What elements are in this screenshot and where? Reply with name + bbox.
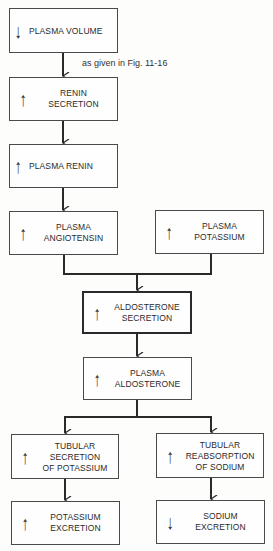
up-arrow-icon: ↑: [94, 367, 101, 390]
node-label: RENIN SECRETION: [34, 88, 113, 110]
down-arrow-icon: ↓: [167, 511, 174, 534]
up-arrow-icon: ↑: [167, 444, 174, 467]
node-label: ALDOSTERONE SECRETION: [108, 302, 186, 324]
node-label: POTASSIUM EXCRETION: [36, 512, 115, 534]
up-arrow-icon: ↑: [22, 512, 29, 535]
node-tubular-reabsorption-sodium: ↑TUBULAR REABSORPTION OF SODIUM: [156, 433, 264, 478]
up-arrow-icon: ↑: [20, 222, 27, 245]
node-label: TUBULAR REABSORPTION OF SODIUM: [181, 439, 259, 472]
up-arrow-icon: ↑: [94, 301, 101, 324]
node-label: SODIUM EXCRETION: [181, 511, 260, 533]
node-plasma-angiotensin: ↑PLASMA ANGIOTENSIN: [9, 211, 118, 255]
node-renin-secretion: ↑RENIN SECRETION: [9, 77, 118, 121]
up-arrow-icon: ↑: [15, 155, 22, 178]
up-arrow-icon: ↑: [166, 221, 173, 244]
node-tubular-secretion-potassium: ↑TUBULAR SECRETION OF POTASSIUM: [11, 434, 119, 479]
node-label: PLASMA ANGIOTENSIN: [34, 222, 113, 244]
node-plasma-aldosterone: ↑PLASMA ALDOSTERONE: [83, 357, 192, 400]
up-arrow-icon: ↑: [22, 445, 29, 468]
node-plasma-volume: ↓PLASMA VOLUME: [9, 8, 118, 53]
flowchart-canvas: as given in Fig. 11-16 ↓PLASMA VOLUME↑RE…: [0, 0, 273, 551]
node-aldosterone-secretion: ↑ALDOSTERONE SECRETION: [82, 291, 192, 334]
node-label: PLASMA RENIN: [29, 161, 113, 172]
down-arrow-icon: ↓: [15, 19, 22, 42]
up-arrow-icon: ↑: [20, 88, 27, 111]
node-plasma-potassium: ↑PLASMA POTASSIUM: [155, 210, 264, 254]
node-plasma-renin: ↑PLASMA RENIN: [9, 144, 118, 188]
node-sodium-excretion: ↓SODIUM EXCRETION: [156, 500, 265, 544]
node-label: PLASMA POTASSIUM: [180, 221, 259, 243]
node-label: TUBULAR SECRETION OF POTASSIUM: [36, 440, 114, 473]
node-label: PLASMA VOLUME: [29, 25, 113, 36]
node-label: PLASMA ALDOSTERONE: [108, 368, 187, 390]
figure-reference-note: as given in Fig. 11-16: [82, 58, 167, 68]
node-potassium-excretion: ↑POTASSIUM EXCRETION: [11, 501, 120, 545]
